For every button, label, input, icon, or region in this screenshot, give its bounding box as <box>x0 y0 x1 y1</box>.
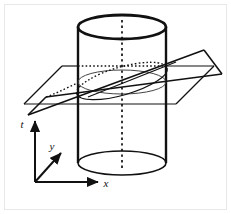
cylinder-plane-diagram: t y x <box>0 0 231 214</box>
y-axis-label: y <box>49 140 55 152</box>
x-axis-label: x <box>103 177 109 189</box>
figure-container: t y x <box>0 0 231 214</box>
